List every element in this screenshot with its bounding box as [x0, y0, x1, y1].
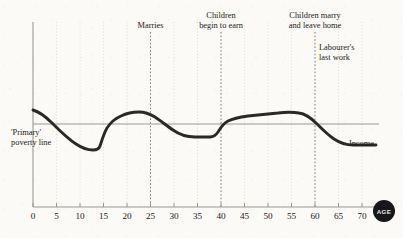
- x-tick-label-20: 20: [122, 211, 131, 221]
- age-badge-label: AGE: [377, 208, 391, 215]
- annotation-income-label: Income: [310, 139, 374, 149]
- annotation-children-marry-line2: and leave home: [289, 21, 342, 31]
- annotation-marries-line1: Marries: [137, 21, 163, 30]
- annotation-children-begin-to-earn: Children begin to earn: [199, 11, 243, 30]
- x-tick-label-5: 5: [54, 211, 59, 221]
- x-tick-label-25: 25: [146, 211, 155, 221]
- poverty-line-label-line2: poverty line: [11, 138, 51, 148]
- x-tick-label-40: 40: [216, 211, 225, 221]
- annotation-labourers-last-work: Labourer's last work: [319, 43, 354, 62]
- x-tick-label-60: 60: [310, 211, 319, 221]
- x-tick-label-30: 30: [169, 211, 178, 221]
- chart-plot-area: [0, 0, 403, 238]
- annotation-children-marry-and-leave-home: Children marry and leave home: [289, 11, 342, 30]
- annotation-marries: Marries: [137, 21, 163, 31]
- poverty-line-label-line1: 'Primary': [11, 128, 51, 138]
- x-tick-label-50: 50: [263, 211, 272, 221]
- x-tick-label-0: 0: [31, 211, 36, 221]
- age-axis-badge: AGE: [373, 200, 395, 222]
- x-tick-label-15: 15: [99, 211, 108, 221]
- annotation-children-begin-line2: begin to earn: [199, 21, 243, 31]
- x-tick-label-45: 45: [240, 211, 249, 221]
- x-tick-label-35: 35: [193, 211, 202, 221]
- annotation-children-marry-line1: Children marry: [289, 11, 342, 21]
- x-tick-label-10: 10: [75, 211, 84, 221]
- annotation-labourer-line1: Labourer's: [319, 43, 354, 53]
- x-tick-label-55: 55: [287, 211, 296, 221]
- poverty-life-cycle-chart: Marries Children begin to earn Children …: [0, 0, 403, 238]
- annotation-labourer-line2: last work: [319, 53, 354, 63]
- x-tick-label-70: 70: [357, 211, 366, 221]
- annotation-children-begin-line1: Children: [199, 11, 243, 21]
- annotation-primary-poverty-line: 'Primary' poverty line: [11, 128, 51, 147]
- income-series-label: Income: [349, 139, 374, 148]
- x-axis-ticks: [33, 203, 362, 207]
- x-tick-label-65: 65: [334, 211, 343, 221]
- gridlines-minor: [57, 22, 363, 207]
